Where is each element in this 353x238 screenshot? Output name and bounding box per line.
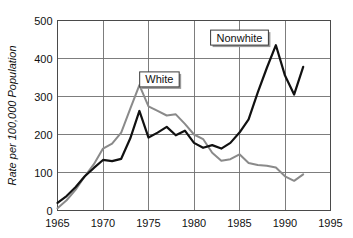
- x-tick-label: 1980: [182, 217, 206, 229]
- chart-container: 0100200300400500 19651970197519801985199…: [0, 0, 353, 238]
- x-tick-label: 1985: [227, 217, 251, 229]
- x-tick-label: 1990: [273, 217, 297, 229]
- x-tick-label: 1970: [91, 217, 115, 229]
- series-line-white: [58, 85, 304, 208]
- annotation-label-white: White: [145, 73, 173, 85]
- y-tick-label: 200: [34, 129, 52, 141]
- x-axis-ticks: 1965197019751980198519901995: [45, 217, 342, 229]
- gridlines: [58, 21, 331, 211]
- annotation-label-nonwhite: Nonwhite: [217, 32, 263, 44]
- y-axis-title-text: Rate per 100,000 Population: [6, 45, 18, 185]
- x-tick-label: 1995: [318, 217, 342, 229]
- series-annotations: NonwhiteWhite: [140, 30, 271, 89]
- y-tick-label: 100: [34, 167, 52, 179]
- y-tick-label: 0: [46, 205, 52, 217]
- series-line-nonwhite: [58, 45, 304, 203]
- x-tick-label: 1965: [45, 217, 69, 229]
- y-axis-ticks: 0100200300400500: [34, 15, 52, 217]
- x-tick-label: 1975: [136, 217, 160, 229]
- y-axis-title: Rate per 100,000 Population: [6, 45, 18, 185]
- y-tick-label: 500: [34, 15, 52, 27]
- line-chart: 0100200300400500 19651970197519801985199…: [0, 0, 353, 238]
- y-tick-label: 300: [34, 91, 52, 103]
- y-tick-label: 400: [34, 53, 52, 65]
- series-lines: [58, 45, 304, 208]
